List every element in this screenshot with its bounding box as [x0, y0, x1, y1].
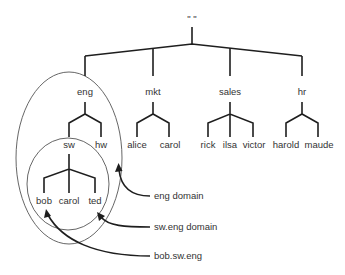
- node-mkt: mkt: [145, 86, 161, 97]
- annotation-sw-eng-domain: sw.eng domain: [154, 221, 217, 232]
- arrow-eng-domain: [119, 170, 150, 196]
- hr-fork: [286, 102, 318, 137]
- node-mkt-carol: carol: [160, 139, 181, 150]
- node-ted: ted: [88, 195, 101, 206]
- node-bob: bob: [36, 195, 52, 206]
- arrow-sw-eng-domain: [101, 217, 150, 227]
- node-hw: hw: [95, 139, 107, 150]
- node-victor: victor: [243, 139, 266, 150]
- node-rick: rick: [201, 139, 216, 150]
- node-harold: harold: [273, 139, 299, 150]
- sales-fork: [208, 102, 253, 137]
- sw-eng-domain-ellipse: [27, 138, 109, 230]
- node-maude: maude: [304, 139, 333, 150]
- mkt-fork: [137, 102, 169, 137]
- node-ilsa: ilsa: [223, 139, 238, 150]
- eng-fork: [69, 102, 101, 137]
- node-eng: eng: [77, 86, 93, 97]
- node-hr: hr: [298, 86, 306, 97]
- annotation-bob-sw-eng: bob.sw.eng: [154, 250, 202, 261]
- arrowhead-bob: [44, 209, 51, 218]
- namespace-tree-diagram: " " eng mkt sales hr sw hw alice carol r…: [0, 0, 345, 275]
- node-sw-carol: carol: [59, 195, 80, 206]
- node-sales: sales: [219, 86, 241, 97]
- annotation-eng-domain: eng domain: [154, 190, 204, 201]
- node-sw: sw: [63, 139, 75, 150]
- root-node-label: " ": [187, 13, 196, 24]
- node-alice: alice: [127, 139, 147, 150]
- sw-fork: [44, 154, 95, 193]
- arrow-bob: [48, 215, 150, 256]
- root-branches: [85, 44, 302, 56]
